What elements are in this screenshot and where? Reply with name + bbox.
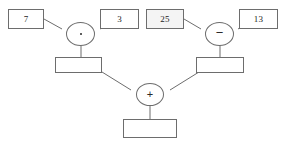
operator-circle-subtract[interactable]: − bbox=[205, 22, 234, 46]
operand-value-b: 3 bbox=[117, 14, 122, 24]
result-box-right[interactable] bbox=[196, 57, 244, 73]
wire-operand-c-to-right-op bbox=[184, 19, 201, 29]
plus-icon: + bbox=[147, 89, 153, 100]
operand-box-b[interactable]: 3 bbox=[100, 9, 139, 29]
wire-left-result-to-plus bbox=[102, 72, 131, 90]
operand-value-a: 7 bbox=[24, 14, 29, 24]
operand-value-c: 25 bbox=[160, 14, 169, 24]
result-box-left[interactable] bbox=[55, 57, 102, 73]
operand-box-c[interactable]: 25 bbox=[146, 9, 184, 29]
wire-right-result-to-plus bbox=[170, 72, 199, 90]
operator-circle-add[interactable]: + bbox=[136, 83, 164, 106]
operand-value-d: 13 bbox=[254, 14, 263, 24]
minus-icon: − bbox=[216, 26, 224, 39]
wire-operand-a-to-left-op bbox=[44, 19, 62, 29]
operator-circle-multiply[interactable] bbox=[66, 22, 95, 46]
operand-box-a[interactable]: 7 bbox=[8, 9, 44, 29]
operand-box-d[interactable]: 13 bbox=[239, 9, 278, 29]
expression-tree-diagram: 7 3 25 13 − + bbox=[0, 0, 287, 148]
result-box-final[interactable] bbox=[123, 119, 177, 138]
multiply-icon bbox=[80, 33, 82, 35]
